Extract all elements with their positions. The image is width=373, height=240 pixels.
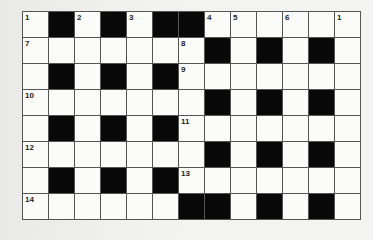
crossword-cell[interactable]: [231, 116, 257, 142]
crossword-cell[interactable]: [283, 64, 309, 90]
crossword-cell[interactable]: [101, 90, 127, 116]
crossword-cell[interactable]: [179, 90, 205, 116]
crossword-cell[interactable]: [101, 38, 127, 64]
crossword-cell[interactable]: [257, 168, 283, 194]
black-square: [205, 90, 231, 116]
black-square: [309, 90, 335, 116]
clue-number: 9: [181, 65, 185, 74]
crossword-cell[interactable]: [335, 142, 361, 168]
black-square: [257, 38, 283, 64]
crossword-cell[interactable]: 10: [23, 90, 49, 116]
crossword-cell[interactable]: [231, 194, 257, 220]
black-square: [179, 12, 205, 38]
crossword-cell[interactable]: 7: [23, 38, 49, 64]
crossword-cell[interactable]: [231, 168, 257, 194]
crossword-cell[interactable]: 11: [179, 116, 205, 142]
black-square: [257, 142, 283, 168]
crossword-cell[interactable]: 9: [179, 64, 205, 90]
clue-number: 14: [25, 195, 34, 204]
crossword-cell[interactable]: [49, 194, 75, 220]
crossword-grid: 12345617891011121314: [22, 11, 361, 220]
crossword-cell[interactable]: [283, 116, 309, 142]
crossword-cell[interactable]: 13: [179, 168, 205, 194]
crossword-cell[interactable]: 3: [127, 12, 153, 38]
crossword-cell[interactable]: 12: [23, 142, 49, 168]
crossword-cell[interactable]: [231, 90, 257, 116]
crossword-cell[interactable]: [283, 168, 309, 194]
black-square: [49, 64, 75, 90]
crossword-cell[interactable]: [205, 116, 231, 142]
clue-number: 13: [181, 169, 190, 178]
black-square: [153, 168, 179, 194]
crossword-cell[interactable]: [335, 194, 361, 220]
crossword-cell[interactable]: [75, 38, 101, 64]
clue-number: 6: [285, 13, 289, 22]
crossword-cell[interactable]: 2: [75, 12, 101, 38]
crossword-cell[interactable]: [309, 64, 335, 90]
clue-number: 5: [233, 13, 237, 22]
clue-number: 3: [129, 13, 133, 22]
crossword-cell[interactable]: [127, 142, 153, 168]
crossword-cell[interactable]: [23, 116, 49, 142]
crossword-cell[interactable]: [205, 168, 231, 194]
crossword-cell[interactable]: [231, 142, 257, 168]
crossword-cell[interactable]: [75, 116, 101, 142]
crossword-cell[interactable]: [49, 142, 75, 168]
crossword-cell[interactable]: [179, 142, 205, 168]
crossword-cell[interactable]: 1: [23, 12, 49, 38]
crossword-cell[interactable]: 1: [335, 12, 361, 38]
crossword-cell[interactable]: [127, 90, 153, 116]
crossword-cell[interactable]: [127, 64, 153, 90]
black-square: [205, 142, 231, 168]
crossword-cell[interactable]: [127, 194, 153, 220]
crossword-cell[interactable]: [283, 38, 309, 64]
crossword-cell[interactable]: [75, 168, 101, 194]
crossword-cell[interactable]: [101, 142, 127, 168]
crossword-cell[interactable]: [75, 142, 101, 168]
crossword-cell[interactable]: [153, 38, 179, 64]
crossword-cell[interactable]: [309, 168, 335, 194]
crossword-cell[interactable]: [283, 90, 309, 116]
crossword-cell[interactable]: 6: [283, 12, 309, 38]
crossword-cell[interactable]: [75, 194, 101, 220]
crossword-cell[interactable]: [231, 64, 257, 90]
crossword-cell[interactable]: [309, 116, 335, 142]
crossword-cell[interactable]: [283, 194, 309, 220]
crossword-cell[interactable]: [257, 64, 283, 90]
crossword-cell[interactable]: [257, 116, 283, 142]
crossword-cell[interactable]: [127, 168, 153, 194]
crossword-cell[interactable]: [153, 194, 179, 220]
crossword-cell[interactable]: [335, 64, 361, 90]
crossword-cell[interactable]: [75, 90, 101, 116]
black-square: [309, 194, 335, 220]
crossword-cell[interactable]: [153, 142, 179, 168]
crossword-cell[interactable]: [231, 38, 257, 64]
crossword-cell[interactable]: 8: [179, 38, 205, 64]
black-square: [49, 116, 75, 142]
crossword-cell[interactable]: [127, 116, 153, 142]
crossword-cell[interactable]: 14: [23, 194, 49, 220]
crossword-cell[interactable]: [101, 194, 127, 220]
crossword-cell[interactable]: 5: [231, 12, 257, 38]
crossword-cell[interactable]: [75, 64, 101, 90]
crossword-cell[interactable]: [335, 116, 361, 142]
black-square: [101, 12, 127, 38]
crossword-cell[interactable]: [309, 12, 335, 38]
crossword-cell[interactable]: [257, 12, 283, 38]
crossword-cell[interactable]: [23, 64, 49, 90]
crossword-cell[interactable]: [335, 168, 361, 194]
black-square: [153, 64, 179, 90]
black-square: [153, 116, 179, 142]
crossword-cell[interactable]: [49, 38, 75, 64]
black-square: [101, 168, 127, 194]
crossword-cell[interactable]: [49, 90, 75, 116]
crossword-cell[interactable]: [205, 64, 231, 90]
crossword-cell[interactable]: [153, 90, 179, 116]
crossword-cell[interactable]: [335, 90, 361, 116]
crossword-cell[interactable]: [283, 142, 309, 168]
crossword-cell[interactable]: [335, 38, 361, 64]
crossword-cell[interactable]: 4: [205, 12, 231, 38]
crossword-cell[interactable]: [23, 168, 49, 194]
crossword-cell[interactable]: [127, 38, 153, 64]
black-square: [101, 64, 127, 90]
